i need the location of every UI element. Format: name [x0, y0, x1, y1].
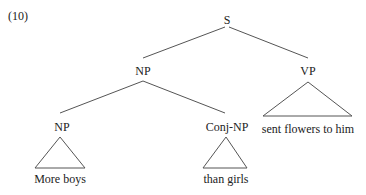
- node-np-top: NP: [135, 64, 151, 78]
- edge-np-np: [60, 81, 143, 113]
- edge-s-vp: [229, 27, 308, 58]
- node-s: S: [224, 13, 231, 27]
- syntax-tree: (10) S NP VP sent flowers to him NP Conj…: [0, 0, 366, 195]
- edge-np-conjnp: [143, 81, 225, 113]
- node-vp: VP: [300, 64, 316, 78]
- leaf-conj: than girls: [204, 172, 249, 186]
- np-triangle: [35, 137, 85, 168]
- node-np-low: NP: [54, 120, 70, 134]
- edge-s-np: [143, 27, 225, 58]
- leaf-np: More boys: [34, 172, 86, 186]
- vp-triangle: [263, 82, 352, 116]
- leaf-vp: sent flowers to him: [262, 122, 355, 136]
- conjnp-triangle: [203, 137, 247, 168]
- node-conj-np: Conj-NP: [206, 120, 249, 134]
- example-number: (10): [8, 9, 28, 23]
